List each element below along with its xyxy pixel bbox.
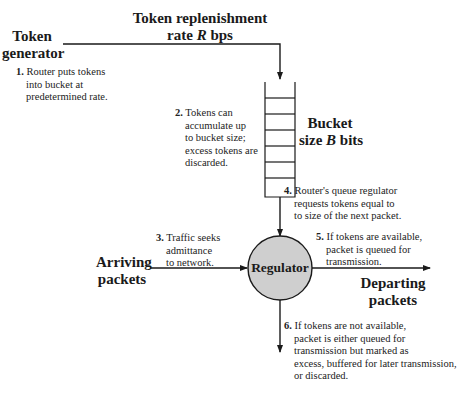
departing-line2: packets bbox=[360, 292, 426, 309]
arriving-packets-label: Arriving packets bbox=[96, 254, 148, 288]
token-bucket-diagram: Token replenishment rate R bps Token gen… bbox=[0, 0, 457, 395]
bucket-label: Bucket size B bits bbox=[299, 115, 361, 149]
token-generator-label: Token generator bbox=[2, 28, 62, 62]
step-3-note: 3. Traffic seeks admittance to network. bbox=[156, 232, 220, 270]
arriving-line1: Arriving bbox=[96, 254, 148, 271]
regulator-label: Regulator bbox=[248, 260, 312, 276]
step-5-note: 5. If tokens are available, packet is qu… bbox=[316, 231, 422, 269]
bucket-line2: size B bits bbox=[299, 132, 361, 149]
departing-line1: Departing bbox=[360, 275, 426, 292]
arriving-line2: packets bbox=[96, 271, 148, 288]
replenishment-label: Token replenishment rate R bps bbox=[120, 10, 280, 44]
step-1-note: 1. Router puts tokens into bucket at pre… bbox=[16, 66, 108, 104]
token-generator-line1: Token bbox=[2, 28, 62, 45]
step-2-note: 2. Tokens can accumulate up to bucket si… bbox=[175, 107, 258, 170]
step-4-note: 4. Router's queue regulator requests tok… bbox=[284, 185, 401, 223]
token-generator-line2: generator bbox=[2, 45, 62, 62]
departing-packets-label: Departing packets bbox=[360, 275, 426, 309]
bucket-icon bbox=[265, 82, 295, 197]
replenishment-line2: rate R bps bbox=[120, 27, 280, 44]
bucket-line1: Bucket bbox=[299, 115, 361, 132]
step-6-note: 6. If tokens are not available, packet i… bbox=[284, 320, 457, 383]
replenishment-line1: Token replenishment bbox=[120, 10, 280, 27]
